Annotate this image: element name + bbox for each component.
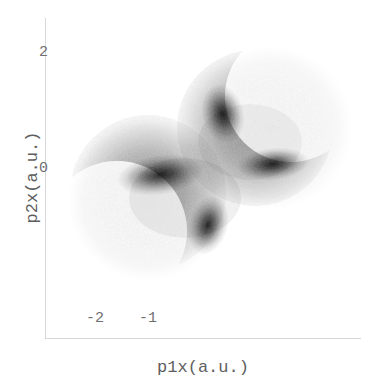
y-tick-label-2: 2 <box>8 45 48 60</box>
lobe-upper-right-shoulder <box>198 104 302 180</box>
y-axis-title: p2x(a.u.) <box>23 98 42 258</box>
x-tick-label-minus1: -1 <box>128 311 168 326</box>
momentum-density-figure: 2 0 -2 -1 p1x(a.u.) p2x(a.u.) <box>0 0 381 390</box>
x-tick-label-minus2: -2 <box>75 311 115 326</box>
density-heatmap <box>45 18 361 338</box>
lobe-upper-right <box>169 42 352 214</box>
x-axis-line <box>45 338 361 339</box>
y-axis-line <box>45 18 46 339</box>
plot-canvas <box>45 18 361 338</box>
x-axis-title: p1x(a.u.) <box>45 358 361 377</box>
